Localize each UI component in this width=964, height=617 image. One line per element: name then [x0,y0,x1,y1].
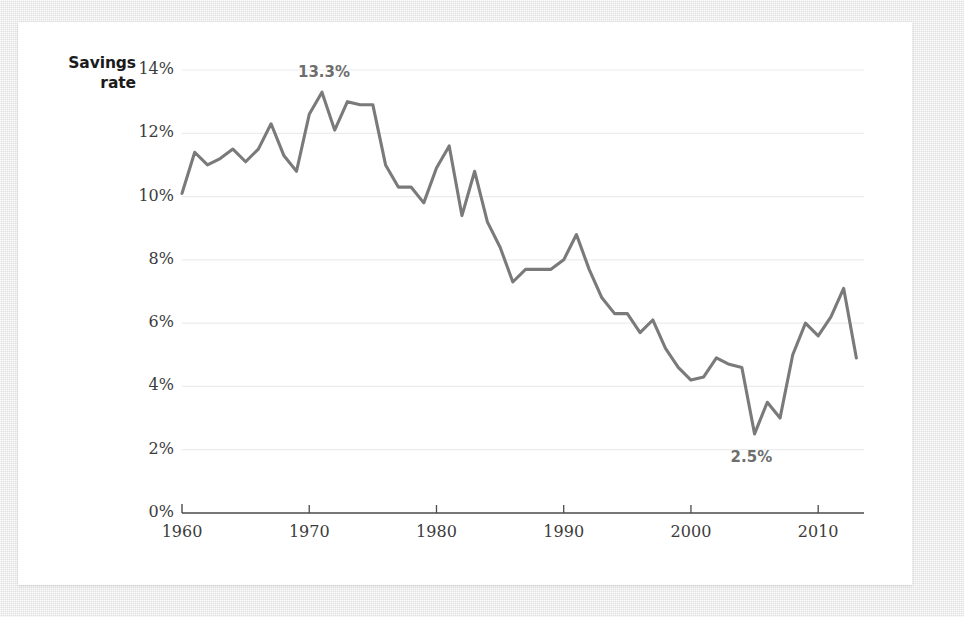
x-axis-tick-label: 1960 [142,522,222,541]
y-axis-tick-label: 6% [114,312,174,331]
savings-rate-line [182,92,856,434]
y-axis-tick-label: 10% [114,186,174,205]
y-axis-tick-label: 4% [114,375,174,394]
line-chart-plot [18,22,912,585]
chart-area: Savings rate 0%2%4%6%8%10%12%14% 1960197… [18,22,912,585]
page-root: Savings rate 0%2%4%6%8%10%12%14% 1960197… [0,0,964,617]
x-axis-tick-label: 2010 [778,522,858,541]
y-axis-tick-label: 8% [114,249,174,268]
x-axis-tick-label: 1980 [396,522,476,541]
data-annotation-label: 2.5% [731,448,773,466]
y-axis-tick-label: 12% [114,122,174,141]
y-axis-tick-label: 14% [114,59,174,78]
gridlines [182,70,864,450]
data-annotation-label: 13.3% [298,63,350,81]
chart-card: Savings rate 0%2%4%6%8%10%12%14% 1960197… [18,22,912,585]
y-axis-tick-label: 2% [114,439,174,458]
x-axis-ticks [309,505,818,513]
y-axis-tick-label: 0% [114,502,174,521]
x-axis-tick-label: 1970 [269,522,349,541]
x-axis-tick-label: 2000 [651,522,731,541]
x-axis-tick-label: 1990 [524,522,604,541]
